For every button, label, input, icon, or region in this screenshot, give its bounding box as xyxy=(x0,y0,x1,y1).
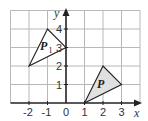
x-tick-label: -2 xyxy=(23,106,33,118)
triangle-p-label: P xyxy=(97,77,105,91)
x-tick-label: 0 xyxy=(63,106,69,118)
triangle-p1-subscript: 1 xyxy=(49,46,53,55)
x-axis-label: x xyxy=(133,106,140,120)
y-tick-label: 3 xyxy=(56,42,62,54)
x-tick-label: 3 xyxy=(119,106,125,118)
grid-lines xyxy=(11,11,141,104)
y-tick-label: 1 xyxy=(56,79,62,91)
x-tick-label: -1 xyxy=(42,106,52,118)
x-tick-label: 2 xyxy=(100,106,106,118)
y-tick-label: 2 xyxy=(56,60,62,72)
y-tick-label: 4 xyxy=(56,23,62,35)
y-axis xyxy=(63,8,70,103)
y-axis-label: y xyxy=(53,6,60,20)
triangle-p1-label: P xyxy=(40,39,48,53)
y-axis-arrow-icon xyxy=(63,8,70,16)
x-tick-label: 1 xyxy=(82,106,88,118)
coordinate-grid: P P 1 -2 -1 0 1 2 3 1 2 3 4 x y xyxy=(0,0,148,121)
